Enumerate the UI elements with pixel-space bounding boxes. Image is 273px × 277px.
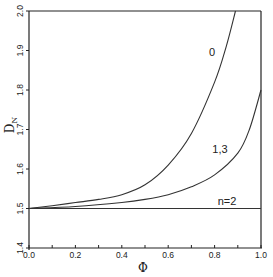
- plot-curves: [29, 11, 261, 209]
- y-tick-label: 1.8: [15, 84, 25, 96]
- y-tick-label: 1.4: [15, 242, 25, 254]
- x-tick-label: 0.2: [69, 250, 81, 260]
- x-tick-label: 0.6: [162, 250, 174, 260]
- x-axis-title: Φ: [138, 261, 148, 275]
- curve-label: 0: [209, 46, 215, 58]
- x-tick-label: 1.0: [255, 250, 267, 260]
- y-tick-label: 1.5: [15, 202, 25, 214]
- plot-labels: 01,3n=2ΦDN: [3, 46, 236, 275]
- chart: 0.00.20.40.60.81.01.41.51.61.71.81.92.0 …: [0, 0, 273, 277]
- curve-0: [29, 11, 235, 209]
- curve-label: 1,3: [212, 143, 227, 155]
- x-tick-label: 0.8: [209, 250, 221, 260]
- y-axis-title: DN: [3, 117, 19, 134]
- y-tick-label: 1.6: [15, 163, 25, 175]
- y-tick-label: 2.0: [15, 5, 25, 17]
- plot-axes: 0.00.20.40.60.81.01.41.51.61.71.81.92.0: [15, 5, 267, 260]
- y-tick-label: 1.9: [15, 44, 25, 56]
- x-tick-label: 0.4: [116, 250, 128, 260]
- curve-label: n=2: [218, 195, 237, 207]
